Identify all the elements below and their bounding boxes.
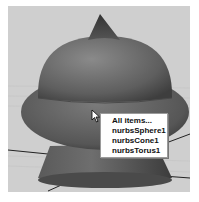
scene-render [8,6,190,192]
nurbs-sphere [38,36,172,102]
3d-viewport[interactable] [8,6,190,192]
spike [88,14,120,40]
menu-item-nurbs-sphere[interactable]: nurbsSphere1 [101,126,167,136]
menu-item-nurbs-cone[interactable]: nurbsCone1 [101,136,167,146]
menu-item-nurbs-torus[interactable]: nurbsTorus1 [101,146,167,156]
axis-line [8,150,48,154]
menu-item-all-items[interactable]: All items... [101,116,167,126]
object-selection-menu: All items... nurbsSphere1 nurbsCone1 nur… [100,113,168,158]
